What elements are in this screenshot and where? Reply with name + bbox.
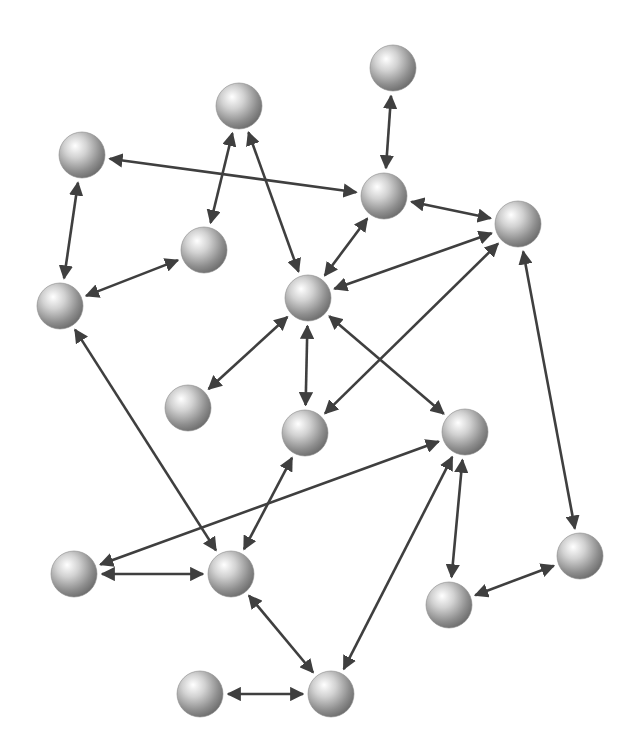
edge-n2-n6: [211, 133, 233, 223]
edge-n8-n10: [306, 326, 308, 405]
network-diagram: [0, 0, 632, 756]
edge-n3-n7: [64, 183, 78, 279]
node-sphere-n11: [442, 409, 488, 455]
edge-n8-n9: [209, 317, 288, 389]
node-sphere-n15: [426, 582, 472, 628]
node-sphere-n16: [177, 671, 223, 717]
node-sphere-n14: [557, 533, 603, 579]
edge-n11-n17: [344, 457, 453, 669]
edge-n8-n11: [329, 316, 443, 414]
edge-n5-n8: [334, 233, 491, 288]
edges-layer: [64, 96, 575, 694]
node-sphere-n4: [361, 173, 407, 219]
node-sphere-n9: [165, 385, 211, 431]
edge-n7-n13: [75, 330, 216, 551]
edge-n2-n8: [248, 132, 298, 271]
edge-n13-n17: [249, 596, 313, 673]
node-sphere-n3: [59, 132, 105, 178]
edge-n11-n15: [452, 460, 463, 577]
edge-n6-n7: [86, 260, 178, 296]
node-sphere-n10: [282, 410, 328, 456]
nodes-layer: [37, 45, 603, 717]
node-sphere-n7: [37, 283, 83, 329]
node-sphere-n17: [308, 671, 354, 717]
node-sphere-n1: [370, 45, 416, 91]
edge-n3-n4: [110, 159, 357, 192]
node-sphere-n8: [285, 275, 331, 321]
node-sphere-n12: [51, 551, 97, 597]
node-sphere-n5: [495, 201, 541, 247]
network-graph-svg: [0, 0, 632, 756]
edge-n5-n14: [523, 252, 575, 529]
edge-n15-n14: [475, 566, 554, 595]
edge-n4-n8: [325, 218, 368, 275]
edge-n4-n5: [411, 202, 490, 219]
node-sphere-n6: [181, 227, 227, 273]
edge-n11-n12: [100, 442, 438, 565]
edge-n1-n4: [386, 96, 391, 168]
node-sphere-n13: [208, 551, 254, 597]
node-sphere-n2: [216, 83, 262, 129]
